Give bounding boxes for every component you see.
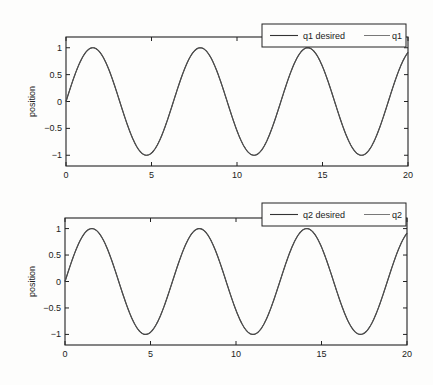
subplot-q1: 0510152010.50−0.5−1positionq1 desiredq1 [27, 24, 413, 180]
legend-label: q1 desired [303, 31, 345, 41]
axes-frame [66, 37, 408, 166]
y-axis-label: position [27, 86, 37, 117]
x-tick-label: 15 [316, 349, 326, 359]
series-line-q2-desired [65, 229, 407, 335]
y-tick-label: −1 [51, 329, 61, 339]
figure: 0510152010.50−0.5−1positionq1 desiredq1 … [0, 0, 433, 385]
axes-frame [65, 218, 407, 345]
y-tick-label: 0.5 [48, 250, 61, 260]
x-tick-label: 10 [231, 349, 241, 359]
series-line-q1 [66, 48, 408, 156]
y-tick-label: −1 [52, 150, 62, 160]
series-line-q2 [65, 229, 407, 335]
x-tick-label: 0 [62, 349, 67, 359]
subplot-q2: 0510152010.50−0.5−1positionq2 desiredq2 [27, 203, 412, 359]
y-tick-label: 0.5 [49, 70, 62, 80]
y-tick-label: 1 [57, 43, 62, 53]
x-tick-label: 5 [149, 170, 154, 180]
x-tick-label: 0 [63, 170, 68, 180]
legend-label: q2 desired [303, 210, 345, 220]
y-tick-label: 0 [57, 97, 62, 107]
legend-label: q2 [392, 210, 402, 220]
y-tick-label: 1 [56, 224, 61, 234]
x-tick-label: 20 [402, 349, 412, 359]
y-axis-label: position [27, 266, 37, 297]
x-tick-label: 20 [403, 170, 413, 180]
x-tick-label: 15 [317, 170, 327, 180]
legend-label: q1 [392, 31, 402, 41]
y-tick-label: −0.5 [44, 123, 62, 133]
x-tick-label: 10 [232, 170, 242, 180]
series-line-q1-desired [66, 48, 408, 156]
x-tick-label: 5 [148, 349, 153, 359]
y-tick-label: 0 [56, 277, 61, 287]
y-tick-label: −0.5 [43, 303, 61, 313]
